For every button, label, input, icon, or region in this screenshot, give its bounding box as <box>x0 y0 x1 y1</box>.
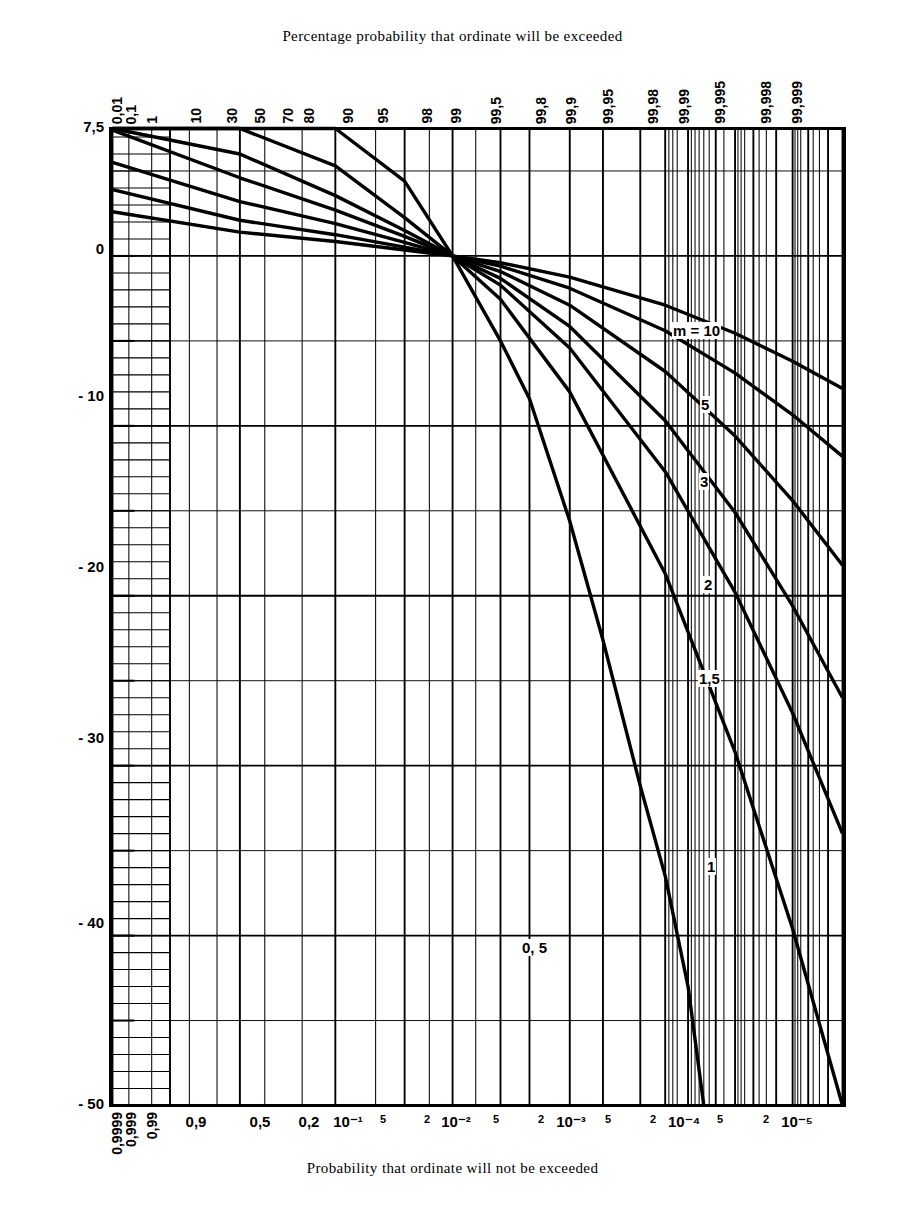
bottom-tick-label: 0,999 <box>124 1112 138 1147</box>
bottom-tick-label: 5 <box>717 1113 723 1125</box>
top-tick-label: 99 <box>449 108 463 124</box>
top-tick-label: 99,999 <box>790 81 804 124</box>
top-tick-label: 98 <box>420 108 434 124</box>
bottom-tick-label: 0,2 <box>299 1113 320 1130</box>
top-tick-label: 90 <box>341 108 355 124</box>
curve-m0.5 <box>113 129 704 1106</box>
top-tick-label: 50 <box>253 108 267 124</box>
bottom-tick-label: 10⁻⁴ <box>668 1113 700 1131</box>
curve-label: 2 <box>703 576 713 593</box>
bottom-tick-label: 10⁻¹ <box>333 1113 363 1131</box>
bottom-tick-label: 10⁻⁵ <box>781 1113 813 1131</box>
curve-label: 1 <box>706 858 716 875</box>
y-tick-label: - 10 <box>78 387 104 404</box>
top-tick-label: 30 <box>225 108 239 124</box>
top-tick-label: 99,998 <box>759 81 773 124</box>
bottom-tick-label: 0,99 <box>145 1112 159 1139</box>
bottom-tick-label: 2 <box>763 1113 769 1125</box>
probability-chart-canvas <box>0 0 905 1205</box>
bottom-tick-label: 0,5 <box>250 1113 271 1130</box>
curve-label: m = 10 <box>672 322 721 339</box>
curve-m3 <box>113 162 843 565</box>
curve-label: 5 <box>700 396 710 413</box>
top-tick-label: 80 <box>302 108 316 124</box>
top-tick-label: 99,5 <box>489 97 503 124</box>
curve-label: 1,5 <box>698 670 721 687</box>
chart-page: Percentage probability that ordinate wil… <box>0 0 905 1205</box>
bottom-tick-label: 0,9 <box>186 1113 207 1130</box>
bottom-tick-label: 10⁻³ <box>556 1113 586 1131</box>
bottom-tick-label: 5 <box>380 1113 386 1125</box>
bottom-tick-label: 2 <box>538 1113 544 1125</box>
curve-m1 <box>113 129 843 1106</box>
data-curves <box>113 129 843 1106</box>
y-tick-label: 0 <box>96 240 104 257</box>
bottom-tick-label: 2 <box>650 1113 656 1125</box>
top-tick-label: 10 <box>189 108 203 124</box>
y-tick-label: - 30 <box>78 729 104 746</box>
y-tick-label: - 50 <box>78 1095 104 1112</box>
top-tick-label: 99,9 <box>564 97 578 124</box>
top-tick-label: 99,95 <box>601 89 615 124</box>
bottom-tick-label: 5 <box>605 1113 611 1125</box>
bottom-tick-label: 5 <box>493 1113 499 1125</box>
top-tick-label: 95 <box>376 108 390 124</box>
curve-label: 0, 5 <box>521 939 548 956</box>
curve-label: 3 <box>699 473 709 490</box>
bottom-tick-label: 0,9999 <box>110 1112 124 1155</box>
y-tick-label: 7,5 <box>83 118 104 135</box>
top-tick-label: 0,1 <box>124 105 138 124</box>
curve-m1.5 <box>113 129 843 834</box>
top-tick-label: 99,98 <box>646 89 660 124</box>
y-tick-label: - 40 <box>78 914 104 931</box>
y-tick-label: - 20 <box>78 558 104 575</box>
top-tick-label: 99,8 <box>534 97 548 124</box>
y-axis-tick-marks <box>111 137 170 1106</box>
top-tick-label: 1 <box>145 116 159 124</box>
top-tick-label: 99,99 <box>677 89 691 124</box>
grid-major-lines <box>111 129 845 1106</box>
top-tick-label: 0,01 <box>110 97 124 124</box>
top-tick-label: 99,995 <box>713 81 727 124</box>
top-tick-label: 70 <box>281 108 295 124</box>
bottom-tick-label: 10⁻² <box>441 1113 471 1131</box>
bottom-tick-label: 2 <box>424 1113 430 1125</box>
